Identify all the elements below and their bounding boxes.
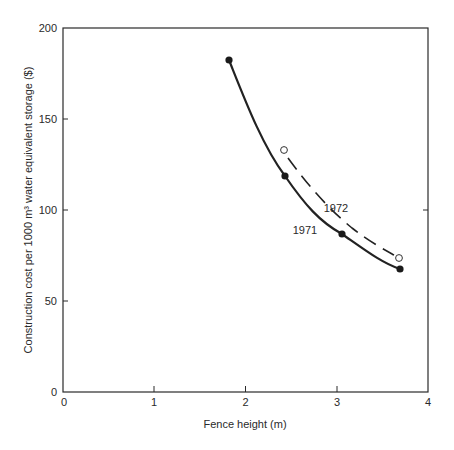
- x-axis-title: Fence height (m): [203, 418, 286, 430]
- data-point-1972: [396, 255, 403, 262]
- chart: 0 50 100 150 200 0 1 2 3 4 Fence height …: [0, 0, 454, 450]
- x-tick-label: 2: [242, 396, 248, 408]
- y-tick-label: 50: [45, 295, 57, 307]
- annotation-1971: 1971: [293, 224, 317, 236]
- annotation-1972: 1972: [324, 202, 348, 214]
- data-point-1971: [225, 56, 232, 63]
- y-tick-label: 0: [51, 386, 57, 398]
- x-axis: 0 1 2 3 4: [61, 386, 431, 408]
- y-axis-title: Construction cost per 1000 m³ water equi…: [22, 67, 34, 354]
- y-tick-label: 200: [39, 22, 57, 34]
- y-tick-label: 150: [39, 113, 57, 125]
- x-tick-label: 4: [425, 396, 431, 408]
- data-point-1971: [396, 265, 403, 272]
- plot-frame: [63, 28, 428, 392]
- series-1971-line: [229, 60, 400, 269]
- data-point-1971: [281, 172, 288, 179]
- data-point-1971: [338, 230, 345, 237]
- x-tick-label: 3: [334, 396, 340, 408]
- series-1971-markers: [225, 56, 403, 272]
- y-tick-label: 100: [39, 204, 57, 216]
- data-point-1972: [281, 147, 288, 154]
- x-tick-label: 0: [61, 396, 67, 408]
- y-axis: 0 50 100 150 200: [39, 22, 428, 398]
- x-tick-label: 1: [151, 396, 157, 408]
